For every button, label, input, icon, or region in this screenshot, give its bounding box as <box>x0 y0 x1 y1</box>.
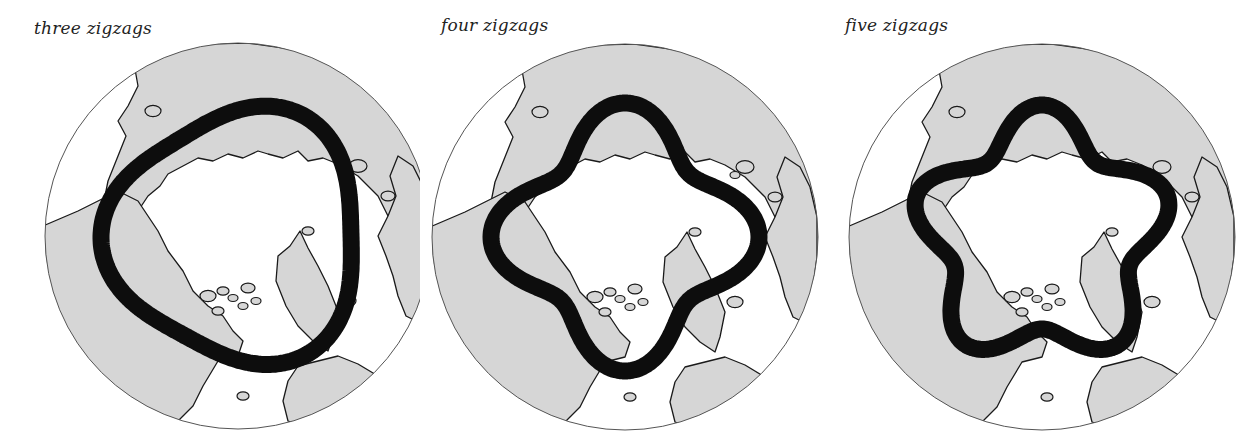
panel-four-zigzags: four zigzags <box>420 0 833 448</box>
island <box>228 295 238 302</box>
island <box>1185 192 1199 202</box>
island <box>1032 296 1042 303</box>
island <box>624 393 636 401</box>
island <box>727 296 743 307</box>
island <box>302 227 314 235</box>
island <box>625 304 635 311</box>
island <box>1016 308 1028 316</box>
island <box>251 298 261 305</box>
island <box>587 291 603 302</box>
polar-map-five-zigzags <box>833 0 1253 448</box>
island <box>1004 291 1020 302</box>
island <box>628 284 642 294</box>
island <box>241 283 255 293</box>
island <box>200 290 216 301</box>
island <box>1055 299 1065 306</box>
island <box>638 299 648 306</box>
island <box>217 287 229 295</box>
island <box>599 308 611 316</box>
polar-map-four-zigzags <box>420 0 833 448</box>
island <box>1144 296 1160 307</box>
island <box>615 296 625 303</box>
island <box>768 192 782 202</box>
island <box>949 106 965 117</box>
island <box>1045 284 1059 294</box>
island <box>237 392 249 400</box>
island <box>736 161 754 174</box>
island <box>1042 304 1052 311</box>
panel-three-zigzags: three zigzags <box>0 0 420 448</box>
island <box>145 105 161 116</box>
island <box>381 191 395 201</box>
island <box>212 307 224 315</box>
island <box>238 303 248 310</box>
island <box>1106 228 1118 236</box>
island <box>1021 288 1033 296</box>
island <box>1041 393 1053 401</box>
polar-map-three-zigzags <box>0 0 420 448</box>
island <box>604 288 616 296</box>
island <box>730 172 740 179</box>
island <box>532 106 548 117</box>
island <box>689 228 701 236</box>
panel-five-zigzags: five zigzags <box>833 0 1253 448</box>
